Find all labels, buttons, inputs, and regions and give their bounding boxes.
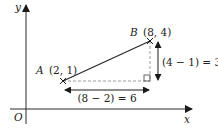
y-axis-label: y — [14, 1, 22, 13]
x-axis-label: x — [184, 113, 190, 125]
origin-label: O — [14, 111, 23, 123]
horizontal-difference-label: (8 − 2) = 6 — [77, 92, 137, 104]
coordinate-diagram: y x O A (2, 1) B (8, 4) (8 − 2) = 6 (4 −… — [0, 0, 218, 134]
point-b-coords: (8, 4) — [143, 26, 171, 38]
right-angle-marker — [144, 75, 150, 81]
point-b-name: B — [129, 26, 138, 38]
vertical-difference-label: (4 − 1) = 3 — [162, 56, 218, 68]
point-a-label: A (2, 1) — [35, 64, 77, 76]
point-a-coords: (2, 1) — [49, 64, 77, 76]
point-b-label: B (8, 4) — [129, 26, 171, 38]
point-a-name: A — [35, 64, 44, 76]
